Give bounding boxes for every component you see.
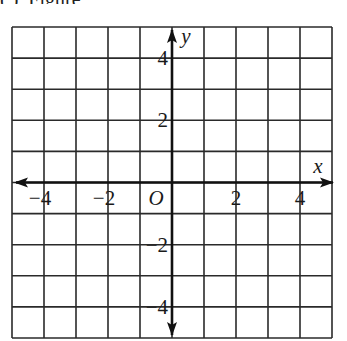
y-tick-label: 4 — [158, 46, 169, 70]
origin-label: O — [148, 186, 163, 210]
x-axis-label: x — [312, 154, 323, 178]
coordinate-plane: xyO−4−22442−2−4 — [0, 0, 347, 341]
x-tick-label: 4 — [295, 186, 306, 210]
axis-labels: xyO−4−22442−2−4 — [29, 24, 324, 319]
y-tick-label: 2 — [158, 108, 169, 132]
x-tick-label: −4 — [29, 186, 52, 210]
axes — [14, 29, 334, 336]
x-tick-label: −2 — [93, 186, 115, 210]
y-axis-label: y — [179, 24, 191, 48]
x-tick-label: 2 — [231, 186, 242, 210]
y-tick-label: −4 — [146, 295, 169, 319]
y-tick-label: −2 — [146, 233, 168, 257]
